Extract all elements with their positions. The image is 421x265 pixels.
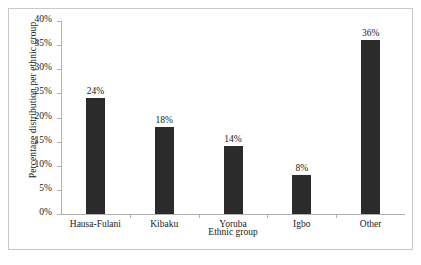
x-axis-title: Ethnic group bbox=[61, 227, 405, 237]
chart-figure: Percentage distribution per ethnic group… bbox=[8, 8, 413, 250]
y-axis-tick-label: 30% bbox=[12, 62, 52, 72]
y-axis-tick-label: 40% bbox=[12, 14, 52, 24]
x-axis-tick bbox=[130, 214, 131, 218]
y-axis-tick: 35% bbox=[57, 45, 61, 46]
bar[interactable]: 18% bbox=[155, 127, 174, 214]
y-axis-tick: 20% bbox=[57, 118, 61, 119]
y-axis-tick-label: 25% bbox=[12, 86, 52, 96]
y-axis-tick: 15% bbox=[57, 142, 61, 143]
x-axis-tick bbox=[199, 214, 200, 218]
y-axis-tick: 25% bbox=[57, 93, 61, 94]
y-axis-tick-label: 10% bbox=[12, 159, 52, 169]
bar-value-label: 18% bbox=[155, 115, 172, 125]
y-axis-tick-label: 35% bbox=[12, 38, 52, 48]
y-axis-tick-label: 15% bbox=[12, 135, 52, 145]
y-axis-tick: 5% bbox=[57, 190, 61, 191]
y-axis-line bbox=[61, 21, 62, 214]
y-axis-tick-label: 5% bbox=[12, 183, 52, 193]
y-axis-tick-label: 20% bbox=[12, 111, 52, 121]
bar[interactable]: 24% bbox=[86, 98, 105, 214]
y-axis-tick: 30% bbox=[57, 69, 61, 70]
y-axis-tick: 0% bbox=[57, 214, 61, 215]
bar-value-label: 8% bbox=[295, 163, 308, 173]
bar-value-label: 24% bbox=[87, 86, 104, 96]
y-axis-tick: 10% bbox=[57, 166, 61, 167]
x-axis-line bbox=[61, 214, 405, 215]
plot-area: 0%5%10%15%20%25%30%35%40% 24%18%14%8%36%… bbox=[61, 21, 405, 214]
y-axis-tick-label: 0% bbox=[12, 207, 52, 217]
x-axis-tick bbox=[267, 214, 268, 218]
bar[interactable]: 8% bbox=[292, 175, 311, 214]
y-axis-tick: 40% bbox=[57, 21, 61, 22]
y-axis-title: Percentage distribution per ethnic group bbox=[28, 0, 38, 200]
bar[interactable]: 36% bbox=[361, 40, 380, 214]
bar-value-label: 36% bbox=[362, 28, 379, 38]
x-axis-tick bbox=[336, 214, 337, 218]
bar-value-label: 14% bbox=[224, 134, 241, 144]
bar[interactable]: 14% bbox=[224, 146, 243, 214]
